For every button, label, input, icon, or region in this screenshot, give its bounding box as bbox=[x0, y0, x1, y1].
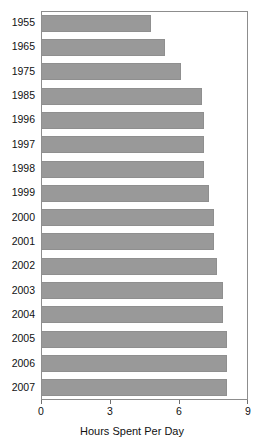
x-tickmark-6 bbox=[179, 400, 180, 404]
bar-1985 bbox=[41, 88, 248, 105]
bar-fill bbox=[41, 379, 227, 396]
y-tick-label-1955: 1955 bbox=[12, 17, 35, 28]
x-tickmark-3 bbox=[110, 400, 111, 404]
bar-chart: 1955196519751985199619971998199920002001… bbox=[0, 0, 264, 447]
bar-fill bbox=[41, 15, 151, 32]
y-tick-label-1997: 1997 bbox=[12, 139, 35, 150]
y-tick-label-2002: 2002 bbox=[12, 260, 35, 271]
bar-2006 bbox=[41, 355, 248, 372]
bar-2003 bbox=[41, 282, 248, 299]
bar-2004 bbox=[41, 306, 248, 323]
bar-fill bbox=[41, 112, 204, 129]
x-tick-label-3: 3 bbox=[107, 405, 113, 418]
bar-fill bbox=[41, 39, 165, 56]
y-tick-label-2006: 2006 bbox=[12, 358, 35, 369]
bar-2001 bbox=[41, 233, 248, 250]
bar-fill bbox=[41, 136, 204, 153]
bar-fill bbox=[41, 282, 223, 299]
y-tick-label-2001: 2001 bbox=[12, 236, 35, 247]
y-tick-label-1998: 1998 bbox=[12, 163, 35, 174]
y-tick-label-2000: 2000 bbox=[12, 212, 35, 223]
bar-fill bbox=[41, 185, 209, 202]
bar-fill bbox=[41, 63, 181, 80]
y-tick-label-2003: 2003 bbox=[12, 285, 35, 296]
y-tick-label-1985: 1985 bbox=[12, 90, 35, 101]
y-axis-category-labels: 1955196519751985199619971998199920002001… bbox=[0, 11, 38, 400]
y-tick-label-2004: 2004 bbox=[12, 309, 35, 320]
y-tick-label-1965: 1965 bbox=[12, 41, 35, 52]
bars-layer bbox=[41, 11, 248, 400]
bar-1975 bbox=[41, 63, 248, 80]
x-tick-label-0: 0 bbox=[38, 405, 44, 418]
bar-fill bbox=[41, 355, 227, 372]
x-tick-label-6: 6 bbox=[176, 405, 182, 418]
bar-fill bbox=[41, 209, 214, 226]
bar-fill bbox=[41, 258, 217, 275]
bar-1998 bbox=[41, 161, 248, 178]
bar-2002 bbox=[41, 258, 248, 275]
y-tick-label-1999: 1999 bbox=[12, 187, 35, 198]
bar-2007 bbox=[41, 379, 248, 396]
x-axis-tick-labels: 0369 bbox=[0, 405, 264, 419]
bar-fill bbox=[41, 331, 227, 348]
x-tickmark-0 bbox=[41, 400, 42, 404]
y-tick-label-1975: 1975 bbox=[12, 66, 35, 77]
x-tickmark-9 bbox=[247, 400, 248, 404]
bar-fill bbox=[41, 88, 202, 105]
x-tick-label-9: 9 bbox=[245, 405, 251, 418]
bar-2005 bbox=[41, 331, 248, 348]
bar-fill bbox=[41, 306, 223, 323]
bar-2000 bbox=[41, 209, 248, 226]
bar-1999 bbox=[41, 185, 248, 202]
bar-1997 bbox=[41, 136, 248, 153]
bar-fill bbox=[41, 161, 204, 178]
y-tick-label-2005: 2005 bbox=[12, 333, 35, 344]
bar-fill bbox=[41, 233, 214, 250]
bar-1996 bbox=[41, 112, 248, 129]
y-tick-label-2007: 2007 bbox=[12, 382, 35, 393]
x-axis-title: Hours Spent Per Day bbox=[0, 424, 264, 438]
bar-1955 bbox=[41, 15, 248, 32]
bar-1965 bbox=[41, 39, 248, 56]
y-tick-label-1996: 1996 bbox=[12, 114, 35, 125]
